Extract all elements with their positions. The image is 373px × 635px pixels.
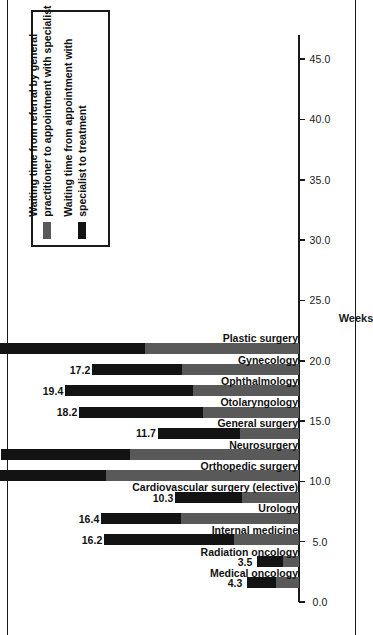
axis-tick-label: 45.0 — [297, 53, 343, 65]
bar-value-text: 16.4 — [78, 512, 98, 524]
bar-value-text: 11.7 — [135, 427, 155, 439]
legend-swatch-specialist-to-treatment — [78, 222, 86, 239]
category-label-text: Cardiovascular surgery (elective) — [132, 481, 298, 493]
category-label-text: Ophthalmology — [221, 374, 298, 386]
bar-plastic-surgery — [0, 342, 299, 353]
axis-tick-label: 40.0 — [297, 113, 343, 125]
bar-segment-specialist-to-treatment — [79, 406, 202, 417]
value-axis-title-text: Weeks — [338, 312, 373, 324]
category-label-text: Internal medicine — [211, 523, 297, 535]
bar-value-text: 17.2 — [69, 363, 89, 375]
legend-item-label: Waiting time from appointment with speci… — [62, 0, 90, 217]
category-label-text: Otolaryngology — [220, 396, 298, 408]
bar-segment-referral-to-specialist — [105, 470, 298, 481]
page-border-left — [7, 0, 8, 635]
chart-legend: Waiting time from referral by general pr… — [31, 10, 110, 247]
axis-tick-label: 25.0 — [297, 294, 343, 306]
value-axis-title: Weeks — [350, 12, 362, 624]
bar-segment-specialist-to-treatment — [0, 342, 144, 353]
category-label-text: Orthopedic surgery — [200, 460, 297, 472]
category-label-text: Radiation oncology — [200, 545, 297, 557]
category-label-text: Medical oncology — [209, 566, 297, 578]
category-label-text: Gynecology — [237, 353, 297, 365]
bar-value-text: 18.2 — [57, 406, 77, 418]
axis-tick-label: 30.0 — [297, 234, 343, 246]
bar-segment-specialist-to-treatment — [91, 364, 181, 375]
legend-item-label: Waiting time from referral by general pr… — [27, 0, 55, 217]
bar-value-label: 16.4 — [83, 492, 95, 544]
bar-value-text: 19.4 — [42, 384, 62, 396]
legend-item: Waiting time from appointment with speci… — [78, 12, 108, 245]
bar-value-label: 19.4 — [46, 364, 58, 416]
category-label-text: General surgery — [217, 417, 298, 429]
bar-segment-specialist-to-treatment — [0, 470, 105, 481]
bar-orthopedic-surgery — [0, 470, 299, 481]
category-label: Plastic surgery — [292, 338, 304, 508]
bar-segment-specialist-to-treatment — [1, 449, 130, 460]
category-label-text: Plastic surgery — [222, 332, 297, 344]
axis-tick-label: 35.0 — [297, 173, 343, 185]
legend-swatch-referral-to-specialist — [43, 222, 51, 239]
bar-segment-referral-to-specialist — [144, 342, 298, 353]
category-label-text: Neurosurgery — [229, 438, 298, 450]
